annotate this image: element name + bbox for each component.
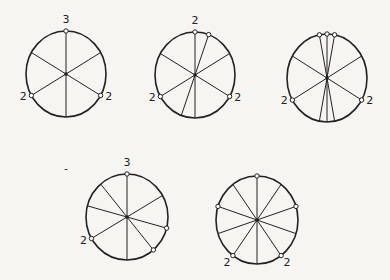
rim-node: [294, 204, 298, 208]
wheel-diagram: 22: [281, 32, 373, 122]
wheel-spoke: [127, 217, 153, 250]
rim-node: [227, 94, 231, 98]
rim-node: [206, 32, 210, 36]
node-label: 2: [223, 256, 230, 269]
wheel-spoke: [292, 56, 327, 78]
rim-node: [98, 93, 102, 97]
rim-node: [216, 204, 220, 208]
wheel-spoke: [66, 74, 101, 96]
node-label: 2: [80, 234, 87, 247]
wheel-spoke: [292, 78, 327, 100]
wheel-spoke: [195, 54, 230, 76]
rim-node: [255, 174, 259, 178]
wheel-spoke: [257, 220, 281, 256]
wheel-spoke: [218, 220, 257, 234]
wheel-diagram: 22: [216, 174, 298, 269]
wheel-spoke: [181, 75, 195, 115]
wheel-diagram: 32: [80, 156, 169, 260]
node-label: 2: [281, 94, 288, 107]
stray-mark: -: [64, 162, 68, 175]
wheel-spoke: [127, 217, 167, 228]
node-label: 2: [20, 90, 27, 103]
hub-dot: [125, 215, 129, 219]
wheel-spoke: [127, 196, 163, 218]
rim-node: [64, 29, 68, 33]
wheel-spoke: [327, 35, 335, 78]
rim-node: [332, 33, 336, 37]
wheel-spoke: [233, 220, 257, 256]
rim-node: [89, 236, 93, 240]
wheel-spoke: [218, 206, 257, 220]
wheel-spoke: [31, 74, 66, 96]
node-label: 2: [366, 94, 373, 107]
wheel-spoke: [101, 184, 127, 217]
wheel-diagram: 322: [20, 13, 112, 117]
rim-node: [29, 93, 33, 97]
rim-node: [231, 253, 235, 257]
wheel-diagram: 222: [149, 14, 241, 118]
wheel-spoke: [319, 78, 327, 121]
wheel-spoke: [66, 53, 101, 75]
hub-dot: [325, 76, 329, 80]
wheel-spoke: [327, 56, 362, 78]
wheel-spoke: [233, 184, 257, 220]
wheel-diagrams: 322222223222 -: [0, 0, 390, 280]
node-label: 2: [234, 91, 241, 104]
wheel-spoke: [160, 75, 195, 97]
hub-dot: [64, 72, 68, 76]
node-label: 2: [192, 14, 199, 27]
wheel-spoke: [91, 217, 127, 239]
rim-node: [158, 94, 162, 98]
node-label: 3: [63, 13, 70, 26]
wheel-spoke: [257, 206, 296, 220]
rim-node: [164, 226, 168, 230]
hub-dot: [193, 73, 197, 77]
rim-node: [325, 32, 329, 36]
node-label: 3: [124, 156, 131, 169]
node-label: 2: [105, 90, 112, 103]
wheel-spoke: [160, 54, 195, 76]
wheel-spoke: [327, 78, 335, 121]
rim-node: [359, 98, 363, 102]
rim-node: [193, 30, 197, 34]
wheel-spoke: [327, 78, 362, 100]
rim-node: [290, 98, 294, 102]
rim-node: [151, 248, 155, 252]
wheel-spoke: [319, 35, 327, 78]
rim-node: [125, 172, 129, 176]
wheel-spoke: [195, 75, 230, 97]
wheel-spoke: [87, 206, 127, 217]
rim-node: [317, 33, 321, 37]
node-label: 2: [284, 256, 291, 269]
hub-dot: [255, 218, 259, 222]
wheel-spoke: [195, 35, 209, 75]
node-label: 2: [149, 91, 156, 104]
wheel-spoke: [257, 220, 296, 234]
wheel-spoke: [257, 184, 281, 220]
wheel-spoke: [31, 53, 66, 75]
